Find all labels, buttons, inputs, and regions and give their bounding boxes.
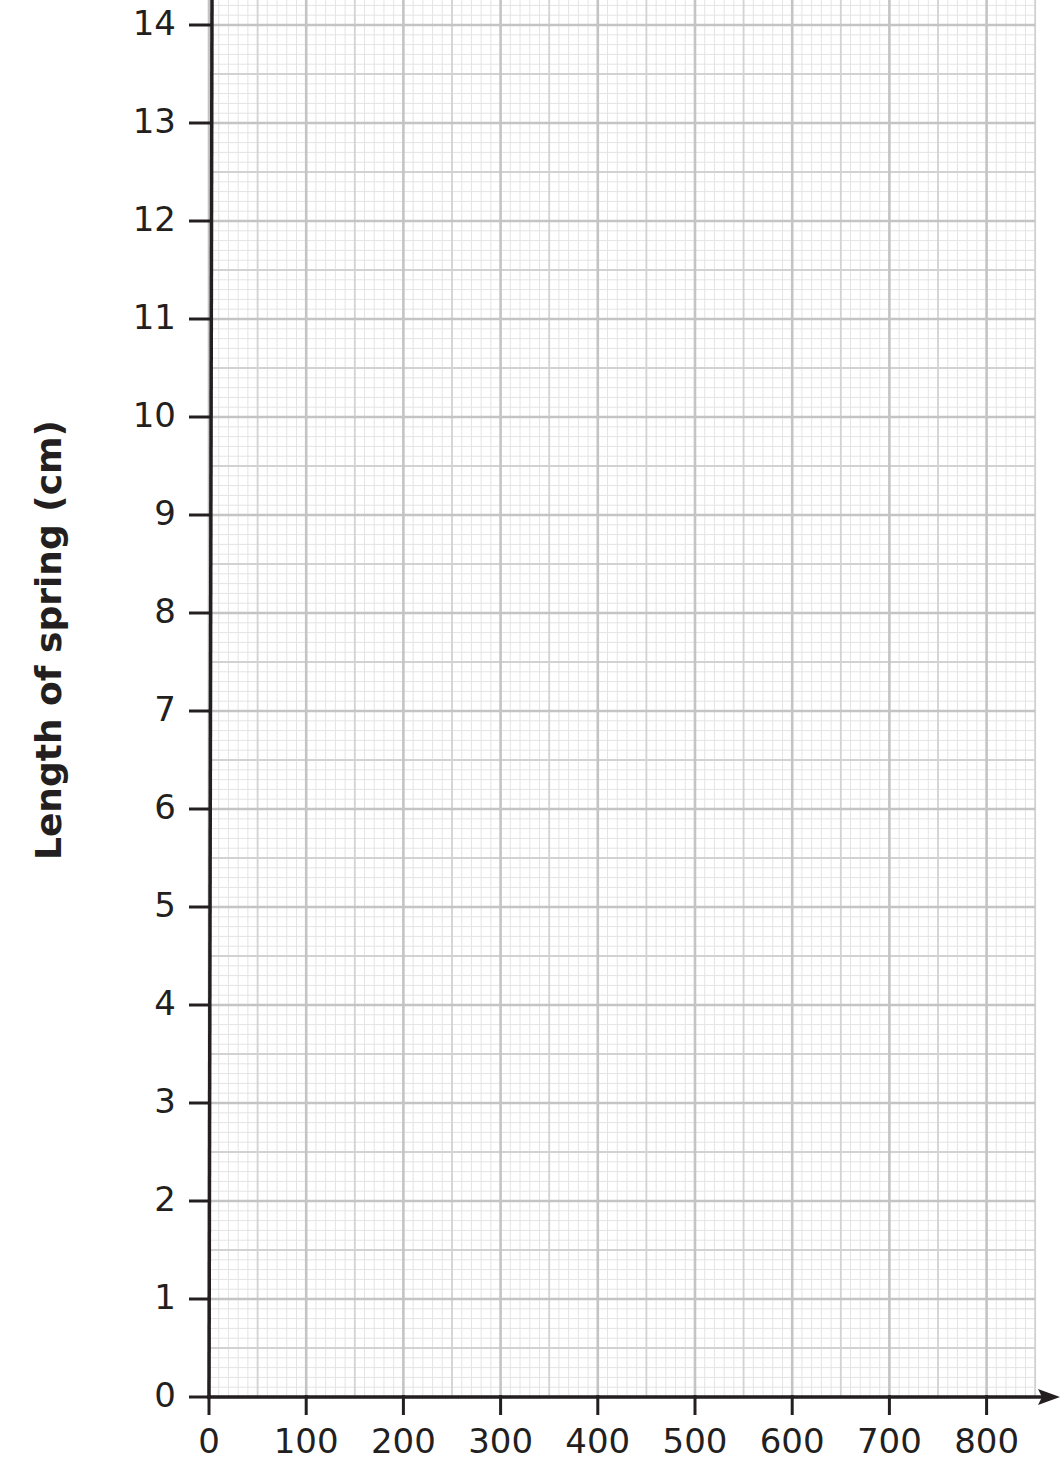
- y-tick-label: 6: [116, 790, 176, 824]
- y-tick-label: 3: [116, 1084, 176, 1118]
- x-tick-label: 800: [927, 1424, 1047, 1458]
- y-tick-label: 10: [116, 398, 176, 432]
- y-tick-label: 13: [116, 104, 176, 138]
- axes: [189, 0, 1060, 1415]
- y-tick-label: 12: [116, 202, 176, 236]
- y-tick-label: 9: [116, 496, 176, 530]
- y-tick-label: 14: [116, 6, 176, 40]
- major-gridlines: [209, 0, 1035, 1397]
- y-tick-label: 2: [116, 1182, 176, 1216]
- y-tick-label: 8: [116, 594, 176, 628]
- y-tick-label: 7: [116, 692, 176, 726]
- y-tick-label: 0: [116, 1378, 176, 1412]
- fine-gridlines: [209, 0, 1035, 1397]
- y-tick-label: 5: [116, 888, 176, 922]
- y-tick-label: 4: [116, 986, 176, 1020]
- y-tick-label: 1: [116, 1280, 176, 1314]
- y-axis-title: Length of spring (cm): [28, 420, 69, 860]
- y-tick-label: 11: [116, 300, 176, 334]
- mid-gridlines: [209, 0, 1035, 1397]
- spring-length-chart: 01234567891011121314 0100200300400500600…: [0, 0, 1061, 1464]
